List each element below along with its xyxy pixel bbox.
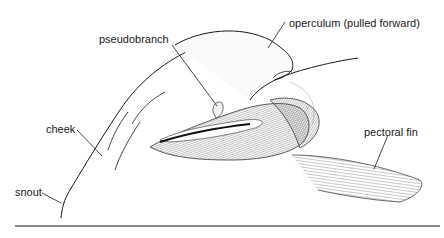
- diagram-illustration: [0, 0, 444, 238]
- gill-arches: [150, 98, 319, 160]
- pectoral-fin-shape: [292, 155, 422, 202]
- fish-gill-diagram: pseudobranch operculum (pulled forward) …: [0, 0, 444, 238]
- label-cheek: cheek: [46, 123, 75, 135]
- operculum-shape: [175, 31, 358, 100]
- label-snout: snout: [15, 186, 42, 198]
- label-pectoral-fin: pectoral fin: [364, 126, 418, 138]
- pseudobranch-shape: [213, 102, 223, 118]
- label-operculum: operculum (pulled forward): [289, 17, 420, 29]
- label-pseudobranch: pseudobranch: [99, 33, 169, 45]
